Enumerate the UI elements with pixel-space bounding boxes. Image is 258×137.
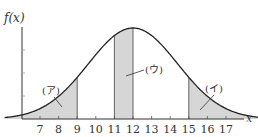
x-tick-label: 16 — [200, 123, 214, 136]
x-tick-label: 9 — [74, 123, 81, 136]
x-tick-label: 11 — [107, 123, 121, 136]
x-tick-label: 7 — [37, 123, 44, 136]
x-axis-label: x — [246, 112, 253, 125]
x-tick-label: 17 — [219, 123, 233, 136]
y-axis-label: f(x) — [3, 11, 25, 25]
x-tick-label: 10 — [89, 123, 103, 136]
x-tick-label: 13 — [145, 123, 159, 136]
x-tick-label: 14 — [163, 123, 177, 136]
x-tick-label: 15 — [182, 123, 196, 136]
normal-distribution-diagram: 7891011121314151617 f(x) x (ア) (ウ) (イ) — [0, 0, 258, 137]
shaded-region — [114, 28, 133, 119]
region-label-u: (ウ) — [145, 64, 163, 75]
region-label-a: (ア) — [42, 85, 60, 96]
x-tick-label: 12 — [126, 123, 140, 136]
region-label-i: (イ) — [205, 83, 223, 94]
x-tick-label: 8 — [55, 123, 62, 136]
shaded-region — [5, 77, 78, 119]
